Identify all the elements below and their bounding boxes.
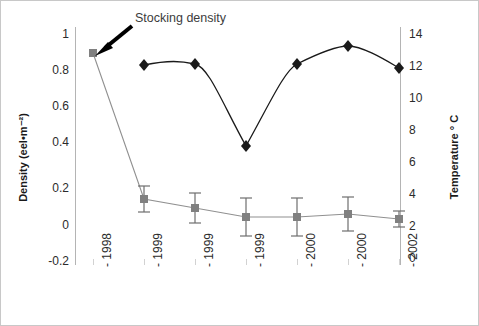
density-marker-2	[140, 195, 148, 203]
density-marker-5	[293, 213, 301, 221]
density-marker-1	[89, 49, 97, 57]
density-marker-3	[191, 204, 199, 212]
temperature-marker-1	[139, 59, 149, 71]
density-line	[93, 53, 399, 219]
stocking-density-annotation: Stocking density	[135, 11, 226, 25]
stocking-density-arrow-icon	[95, 26, 132, 56]
density-error-bars	[138, 186, 405, 236]
temperature-marker-3	[241, 140, 251, 152]
temperature-marker-2	[190, 58, 200, 70]
density-markers	[89, 49, 403, 223]
temperature-line	[144, 46, 399, 146]
density-marker-6	[344, 210, 352, 218]
density-marker-7	[395, 215, 403, 223]
chart-figure: Density (eel•m⁻²) Temperature ° C 1 0.8 …	[0, 0, 479, 326]
temperature-marker-6	[394, 62, 404, 74]
density-marker-4	[242, 213, 250, 221]
temperature-marker-5	[343, 40, 353, 52]
temperature-markers	[139, 40, 404, 152]
plot-area	[1, 1, 479, 326]
temperature-marker-4	[292, 58, 302, 70]
